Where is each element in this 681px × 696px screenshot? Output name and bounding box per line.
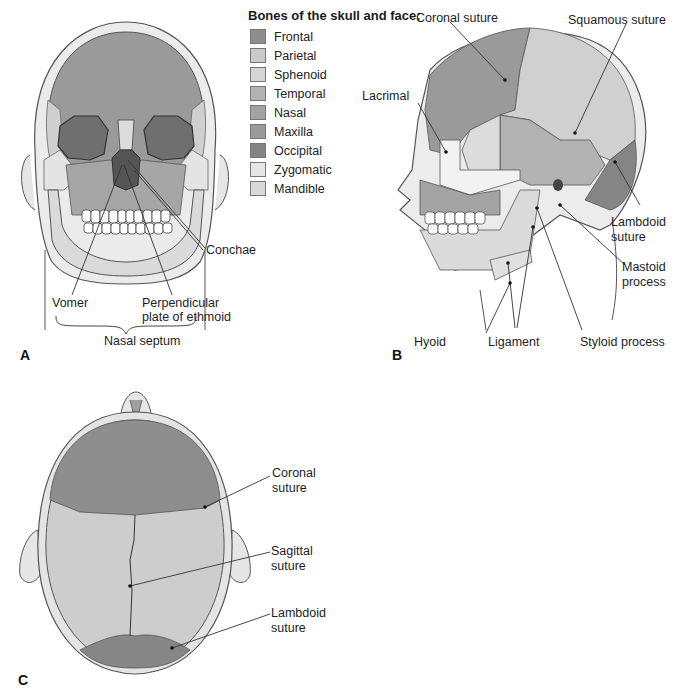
label-coronal-suture: Coronal suture: [416, 11, 498, 26]
skull-superior-view: [20, 392, 270, 674]
legend-item-sphenoid: Sphenoid: [250, 65, 421, 84]
legend-label: Mandible: [274, 182, 325, 196]
label-squamous-suture: Squamous suture: [568, 13, 666, 28]
legend-item-occipital: Occipital: [250, 141, 421, 160]
legend-item-nasal: Nasal: [250, 103, 421, 122]
label-lambdoid-line1: Lambdoid: [271, 606, 326, 621]
label-ligament: Ligament: [488, 335, 539, 350]
swatch-mandible: [250, 181, 266, 196]
swatch-maxilla: [250, 124, 266, 139]
swatch-sphenoid: [250, 67, 266, 82]
label-mastoid-line1: Mastoid: [622, 260, 666, 275]
legend-label: Sphenoid: [274, 68, 327, 82]
legend-label: Zygomatic: [274, 163, 332, 177]
label-nasal-septum: Nasal septum: [104, 334, 180, 349]
label-lambdoid-line2: suture: [271, 621, 306, 636]
label-mastoid-line2: process: [622, 275, 666, 290]
swatch-occipital: [250, 143, 266, 158]
label-lambdoid-line2: suture: [611, 230, 646, 245]
label-perpendicular-line2: plate of ethmoid: [142, 310, 231, 325]
label-conchae: Conchae: [206, 243, 256, 258]
legend-item-mandible: Mandible: [250, 179, 421, 198]
swatch-nasal: [250, 105, 266, 120]
label-coronal-line2: suture: [272, 481, 307, 496]
swatch-frontal: [250, 29, 266, 44]
legend-item-parietal: Parietal: [250, 46, 421, 65]
panel-letter-b: B: [392, 347, 402, 363]
label-perpendicular-line1: Perpendicular: [142, 296, 219, 311]
legend-item-frontal: Frontal: [250, 27, 421, 46]
legend-label: Occipital: [274, 144, 322, 158]
legend-item-zygomatic: Zygomatic: [250, 160, 421, 179]
label-sagittal-line1: Sagittal: [271, 544, 313, 559]
panel-letter-c: C: [18, 672, 28, 688]
label-lacrimal: Lacrimal: [362, 89, 409, 104]
swatch-parietal: [250, 48, 266, 63]
legend-title: Bones of the skull and face:: [248, 8, 421, 23]
label-styloid-process: Styloid process: [580, 335, 665, 350]
swatch-temporal: [250, 86, 266, 101]
legend-item-maxilla: Maxilla: [250, 122, 421, 141]
label-hyoid: Hyoid: [414, 335, 446, 350]
legend-label: Maxilla: [274, 125, 313, 139]
swatch-zygomatic: [250, 162, 266, 177]
panel-letter-a: A: [20, 347, 30, 363]
skull-front-view: [22, 22, 229, 334]
legend-label: Temporal: [274, 87, 325, 101]
label-coronal-line1: Coronal: [272, 466, 316, 481]
legend-label: Frontal: [274, 30, 313, 44]
legend-label: Parietal: [274, 49, 316, 63]
label-lambdoid-line1: Lambdoid: [611, 215, 666, 230]
legend-label: Nasal: [274, 106, 306, 120]
label-vomer: Vomer: [52, 296, 88, 311]
skull-lateral-view: [398, 22, 646, 333]
label-sagittal-line2: suture: [271, 559, 306, 574]
